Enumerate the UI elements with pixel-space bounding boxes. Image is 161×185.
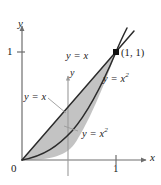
label-line-top: y = x xyxy=(66,51,88,62)
y-tick-label-1: 1 xyxy=(7,46,13,57)
x-axis-label: x xyxy=(150,152,155,163)
label-point-1-1: (1, 1) xyxy=(121,48,144,59)
label-parabola-bottom-exponent: 2 xyxy=(104,126,108,134)
label-parabola-right-exponent: 2 xyxy=(125,71,129,79)
figure-region-between-curves: y x 0 1 1 y y = x y = x y = x2 y = x2 (1… xyxy=(0,0,161,185)
origin-label: 0 xyxy=(11,163,17,174)
x-tick-label-1: 1 xyxy=(113,163,119,174)
label-parabola-right-text: y = x xyxy=(103,73,125,84)
label-parabola-bottom: y = x2 xyxy=(82,127,108,139)
label-parabola-right: y = x2 xyxy=(103,72,129,84)
inner-axis-label-y: y xyxy=(70,68,75,78)
point-marker-1-1 xyxy=(113,49,119,55)
label-parabola-bottom-text: y = x xyxy=(82,128,104,139)
y-axis-label: y xyxy=(18,18,23,29)
label-line-left: y = x xyxy=(24,92,46,103)
leader-line-y-equals-x xyxy=(48,98,66,113)
